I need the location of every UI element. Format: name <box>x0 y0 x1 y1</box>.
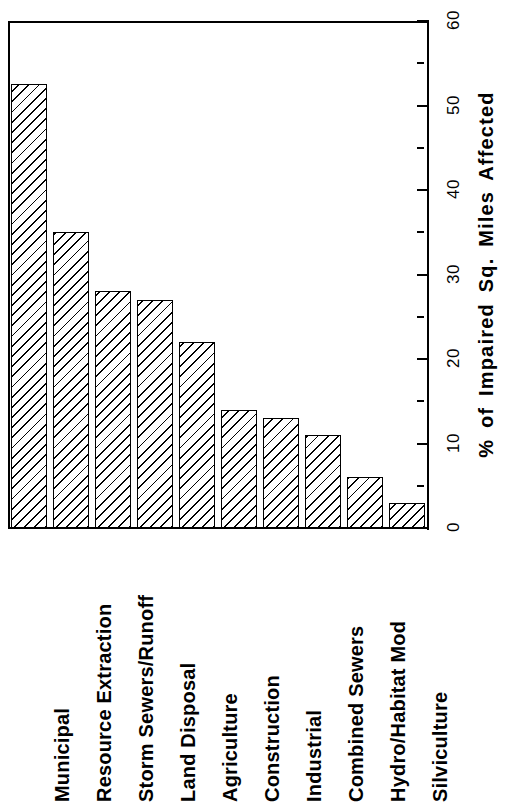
category-label: Hydro/Habitat Mod <box>378 534 418 802</box>
category-label: Land Disposal <box>168 534 208 802</box>
y-tick-label: 50 <box>444 85 464 125</box>
bar <box>179 342 215 528</box>
y-tick-minor <box>417 62 424 64</box>
category-label: Silviculture <box>420 534 460 802</box>
y-tick-major <box>417 358 428 360</box>
y-tick-minor <box>417 485 424 487</box>
bar <box>95 291 131 528</box>
category-label: Municipal <box>42 534 82 802</box>
bar-series <box>8 21 428 528</box>
bar <box>305 435 341 528</box>
y-tick-label: 60 <box>444 0 464 40</box>
y-tick-major <box>417 189 428 191</box>
bar <box>221 410 257 528</box>
y-tick-minor <box>417 231 424 233</box>
bar <box>347 477 383 528</box>
category-label: Industrial <box>294 534 334 802</box>
y-axis-ticks <box>417 20 429 530</box>
category-label: Resource Extraction <box>84 534 124 802</box>
y-tick-major <box>417 105 428 107</box>
y-tick-label: 40 <box>444 169 464 209</box>
y-tick-major <box>417 274 428 276</box>
y-tick-label: 20 <box>444 338 464 378</box>
x-axis-category-labels: MunicipalResource ExtractionStorm Sewers… <box>8 534 428 802</box>
category-label: Storm Sewers/Runoff <box>126 534 166 802</box>
y-tick-minor <box>417 400 424 402</box>
bar <box>137 300 173 528</box>
bar-chart-figure: 0102030405060 % of Impaired Sq. Miles Af… <box>0 0 517 805</box>
bar <box>263 418 299 528</box>
y-tick-minor <box>417 316 424 318</box>
bar <box>11 84 47 528</box>
y-tick-label: 10 <box>444 423 464 463</box>
bar <box>53 232 89 528</box>
category-label: Construction <box>252 534 292 802</box>
y-tick-major <box>417 20 428 22</box>
y-tick-major <box>417 443 428 445</box>
y-tick-minor <box>417 147 424 149</box>
category-label: Agriculture <box>210 534 250 802</box>
y-tick-major <box>417 527 428 529</box>
y-tick-label: 30 <box>444 254 464 294</box>
category-label: Combined Sewers <box>336 534 376 802</box>
y-axis-title: % of Impaired Sq. Miles Affected <box>466 21 506 528</box>
